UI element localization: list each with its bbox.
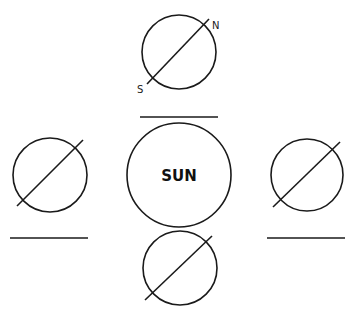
south-label: S	[137, 84, 143, 95]
earth-circle-left	[13, 138, 87, 212]
north-label: N	[212, 20, 219, 31]
earth-bottom	[143, 231, 217, 305]
earth-axis-right	[273, 142, 340, 207]
sun: SUN	[127, 123, 231, 227]
earth-axis-left	[17, 140, 83, 206]
earth-axis-top	[147, 19, 209, 84]
earth-right	[271, 139, 343, 211]
sun-label: SUN	[161, 167, 197, 185]
earth-orbit-diagram: N S SUN	[0, 0, 359, 326]
earth-left	[13, 138, 87, 212]
diagram-canvas: N S SUN	[0, 0, 359, 326]
earth-axis-bottom	[145, 236, 212, 300]
earth-top: N S	[137, 15, 219, 95]
